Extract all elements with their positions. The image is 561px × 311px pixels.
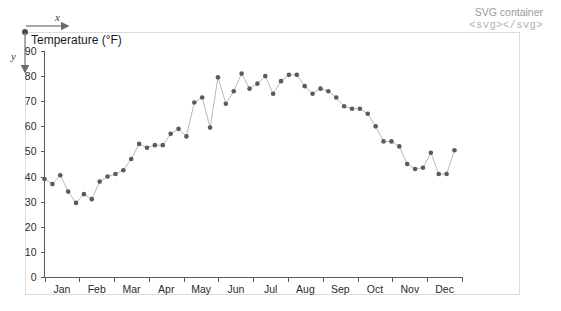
x-axis: JanFebMarAprMayJunJulAugSepOctNovDec [45, 277, 463, 295]
y-tick-label: 0 [31, 271, 37, 283]
data-point [137, 142, 142, 147]
data-point [105, 174, 110, 179]
y-tick-label: 70 [25, 95, 37, 107]
data-point [279, 79, 284, 84]
series-group [42, 71, 457, 205]
data-point [358, 106, 363, 111]
x-tick-label: Jul [264, 283, 277, 295]
data-point [208, 125, 213, 130]
data-point [224, 101, 229, 106]
y-tick-label: 40 [25, 171, 37, 183]
data-point [334, 95, 339, 100]
x-tick-label: Apr [158, 283, 175, 295]
data-point [263, 74, 268, 79]
data-point [255, 81, 260, 86]
data-point [436, 172, 441, 177]
data-point [153, 143, 158, 148]
data-point [287, 73, 292, 78]
x-tick-label: Nov [400, 283, 419, 295]
data-point [216, 75, 221, 80]
data-point [381, 139, 386, 144]
data-point [82, 192, 87, 197]
line-chart: 0102030405060708090 JanFebMarAprMayJunJu… [0, 0, 561, 311]
data-point [413, 167, 418, 172]
data-point [168, 132, 173, 137]
data-point [58, 173, 63, 178]
y-tick-label: 30 [25, 196, 37, 208]
data-point [318, 86, 323, 91]
data-point [429, 150, 434, 155]
data-point [247, 86, 252, 91]
x-tick-label: May [191, 283, 212, 295]
data-point [145, 145, 150, 150]
x-tick-label: Aug [296, 283, 315, 295]
data-point [66, 189, 71, 194]
y-tick-label: 90 [25, 45, 37, 57]
data-point [90, 197, 95, 202]
x-tick-label: Sep [331, 283, 350, 295]
data-point [350, 106, 355, 111]
screenshot-root: SVG container <svg></svg> x y Temperatur… [0, 0, 561, 311]
data-point [326, 89, 331, 94]
data-point [192, 100, 197, 105]
data-point [42, 177, 47, 182]
temperature-points [42, 71, 457, 205]
y-axis-ticks: 0102030405060708090 [25, 45, 45, 283]
data-point [129, 157, 134, 162]
temperature-line [45, 74, 455, 203]
data-point [310, 91, 315, 96]
y-tick-label: 20 [25, 221, 37, 233]
data-point [421, 165, 426, 170]
data-point [271, 91, 276, 96]
data-point [184, 134, 189, 139]
data-point [113, 172, 118, 177]
x-tick-label: Dec [435, 283, 454, 295]
data-point [160, 143, 165, 148]
y-tick-label: 60 [25, 120, 37, 132]
data-point [342, 104, 347, 109]
x-axis-ticks: JanFebMarAprMayJunJulAugSepOctNovDec [45, 277, 463, 295]
data-point [389, 139, 394, 144]
data-point [365, 111, 370, 116]
x-tick-label: Jun [227, 283, 244, 295]
data-point [121, 168, 126, 173]
data-point [444, 172, 449, 177]
data-point [231, 89, 236, 94]
data-point [97, 179, 102, 184]
y-axis: 0102030405060708090 [25, 45, 45, 283]
data-point [405, 162, 410, 167]
y-tick-label: 50 [25, 145, 37, 157]
y-tick-label: 80 [25, 70, 37, 82]
data-point [295, 73, 300, 78]
data-point [373, 124, 378, 129]
data-point [239, 71, 244, 76]
data-point [452, 148, 457, 153]
data-point [50, 182, 55, 187]
data-point [397, 144, 402, 149]
x-tick-label: Mar [122, 283, 141, 295]
x-tick-label: Feb [88, 283, 106, 295]
data-point [200, 95, 205, 100]
data-point [302, 84, 307, 89]
x-tick-label: Jan [53, 283, 70, 295]
y-tick-label: 10 [25, 246, 37, 258]
x-tick-label: Oct [367, 283, 383, 295]
data-point [74, 201, 79, 206]
data-point [176, 127, 181, 132]
